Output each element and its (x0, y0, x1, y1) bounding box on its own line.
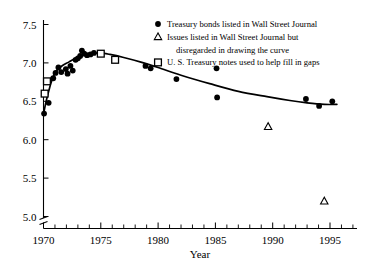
data-point-square (112, 56, 119, 63)
data-point-dot (70, 68, 76, 74)
x-tick-label: 1995 (319, 234, 342, 246)
legend-label-cont: disregarded in drawing the curve (176, 45, 289, 55)
y-tick-label: 5.5 (23, 172, 37, 184)
legend-marker-triangle (154, 33, 161, 40)
data-point-dot (65, 71, 71, 77)
y-tick-label: 7.0 (23, 57, 37, 69)
legend-item-triangle: Issues listed in Wall Street Journal but… (154, 32, 299, 55)
data-point-dot (214, 95, 220, 101)
legend-marker-square (155, 59, 162, 66)
legend-marker-dot (155, 21, 161, 27)
data-point-dot (50, 75, 56, 81)
y-tick-label: 6.0 (23, 134, 37, 146)
y-tick-label: 6.5 (23, 95, 37, 107)
chart-container: 5.05.56.06.57.07.5 197019751980198519901… (0, 0, 366, 264)
data-point-dot (41, 111, 47, 117)
data-point-dot (53, 70, 59, 76)
chart-legend: Treasury bonds listed in Wall Street Jou… (154, 19, 320, 67)
data-point-dot (91, 50, 97, 56)
y-axis-ticks (44, 25, 49, 217)
x-tick-label: 1975 (90, 234, 113, 246)
legend-item-square: U. S. Treasury notes used to help fill i… (155, 57, 321, 67)
x-axis-title: Year (190, 248, 211, 260)
data-point-dot (148, 65, 154, 71)
data-point-triangle (321, 197, 328, 204)
y-tick-label: 7.5 (23, 19, 37, 31)
legend-item-dot: Treasury bonds listed in Wall Street Jou… (155, 19, 318, 29)
data-point-square (97, 50, 104, 57)
data-point-square (41, 90, 48, 97)
x-tick-label: 1990 (262, 234, 285, 246)
interest-rate-scatter-chart: 5.05.56.06.57.07.5 197019751980198519901… (0, 0, 366, 264)
legend-label: Treasury bonds listed in Wall Street Jou… (167, 19, 318, 29)
legend-label: Issues listed in Wall Street Journal but (167, 32, 299, 42)
data-point-triangle (264, 123, 271, 130)
x-tick-label: 1985 (204, 234, 227, 246)
data-point-dot (143, 63, 149, 69)
data-point-dot (174, 76, 180, 82)
data-point-dot (46, 100, 52, 106)
y-tick-label: 5.0 (23, 211, 37, 223)
data-point-dot (303, 96, 309, 102)
data-points-layer (41, 48, 335, 204)
data-point-dot (329, 98, 335, 104)
x-tick-label: 1980 (147, 234, 170, 246)
legend-label: U. S. Treasury notes used to help fill i… (167, 57, 320, 67)
data-point-dot (316, 103, 322, 109)
x-axis-ticks (44, 223, 353, 229)
data-point-square (44, 78, 51, 85)
y-axis-tick-labels: 5.05.56.06.57.07.5 (23, 19, 37, 223)
series-triangle (264, 123, 328, 204)
x-tick-label: 1970 (33, 234, 56, 246)
x-axis-tick-labels: 197019751980198519901995 (33, 234, 342, 246)
